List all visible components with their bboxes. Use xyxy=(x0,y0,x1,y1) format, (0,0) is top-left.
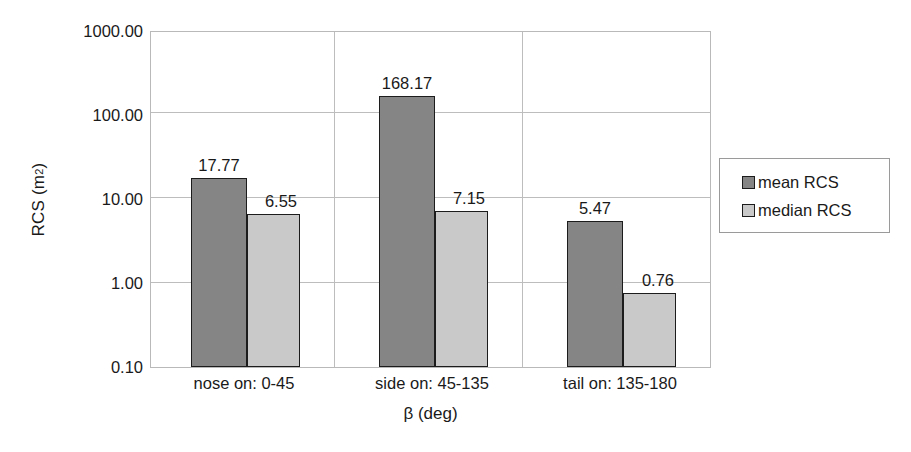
x-category-label-tail-on: tail on: 135-180 xyxy=(563,374,677,393)
legend: mean RCS median RCS xyxy=(719,158,890,233)
y-tick-label: 1000.00 xyxy=(45,22,150,41)
x-axis-title: β (deg) xyxy=(150,404,711,424)
y-tick-label: 100.00 xyxy=(45,106,150,125)
bar-median-group3 xyxy=(623,293,676,367)
y-tick-label: 1.00 xyxy=(45,274,150,293)
data-label-mean-group2: 168.17 xyxy=(382,74,432,93)
data-label-median-group1: 6.55 xyxy=(265,192,297,211)
legend-label-median-rcs: median RCS xyxy=(758,201,852,220)
x-axis-category-labels: nose on: 0-45 side on: 45-135 tail on: 1… xyxy=(150,374,711,400)
light-gray-swatch-icon xyxy=(742,204,755,217)
dark-gray-swatch-icon xyxy=(742,176,755,189)
data-label-median-group3: 0.76 xyxy=(642,271,674,290)
rcs-bar-chart: RCS (m2) 1000.00 100.00 10.00 1.00 0.10 xyxy=(0,0,911,452)
legend-label-mean-rcs: mean RCS xyxy=(758,173,839,192)
data-label-mean-group1: 17.77 xyxy=(198,156,239,175)
plot-area: 17.77 6.55 168.17 7.15 5.47 0.76 xyxy=(150,31,711,368)
x-category-label-nose-on: nose on: 0-45 xyxy=(194,374,295,393)
legend-item-mean-rcs: mean RCS xyxy=(742,168,889,196)
x-category-label-side-on: side on: 45-135 xyxy=(375,374,489,393)
data-label-mean-group3: 5.47 xyxy=(579,199,611,218)
legend-item-median-rcs: median RCS xyxy=(742,196,889,224)
y-tick-label: 10.00 xyxy=(45,190,150,209)
y-tick-label: 0.10 xyxy=(45,358,150,377)
y-axis-tick-labels: 1000.00 100.00 10.00 1.00 0.10 xyxy=(45,0,150,452)
bar-median-group2 xyxy=(435,211,488,367)
gridline-category-separator xyxy=(334,32,335,367)
bar-mean-group2 xyxy=(379,96,435,367)
bar-median-group1 xyxy=(247,214,300,367)
gridline-category-separator xyxy=(522,32,523,367)
bar-mean-group3 xyxy=(567,221,623,367)
data-label-median-group2: 7.15 xyxy=(453,189,485,208)
bar-mean-group1 xyxy=(191,178,247,367)
